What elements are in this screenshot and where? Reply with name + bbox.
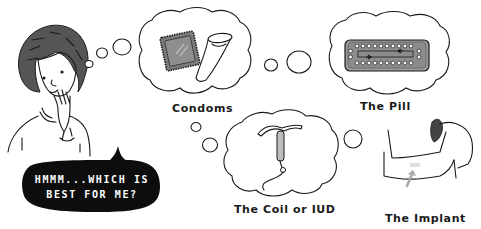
- thought-puffs-4: [344, 130, 362, 148]
- label-condoms: Condoms: [172, 102, 233, 115]
- eye-icon: [60, 70, 63, 73]
- condom-wrapper-icon: [160, 31, 200, 71]
- contraception-choice-illustration: .ln { fill: none; stroke: #1a1a1a; strok…: [0, 0, 481, 229]
- speech-bubble-text: HMMM...WHICH IS BEST FOR ME?: [24, 164, 160, 210]
- label-the-coil-or-iud: The Coil or IUD: [234, 203, 336, 216]
- pill-pack-icon: [345, 40, 429, 71]
- eye-icon: [42, 76, 45, 79]
- thought-puffs-3: [191, 123, 218, 153]
- hair-icon: [19, 25, 88, 92]
- thought-puffs-2: [265, 51, 312, 73]
- speech-line-1: HMMM...WHICH IS: [35, 172, 149, 187]
- speech-line-2: BEST FOR ME?: [46, 187, 137, 202]
- label-the-pill: The Pill: [360, 100, 411, 113]
- thought-cloud-pill: [329, 12, 449, 95]
- thinking-person: [8, 25, 90, 156]
- thought-cloud-condoms: [139, 8, 251, 94]
- label-the-implant: The Implant: [385, 212, 466, 225]
- thought-puffs-1: [85, 39, 131, 68]
- thought-cloud-coil: [224, 110, 338, 196]
